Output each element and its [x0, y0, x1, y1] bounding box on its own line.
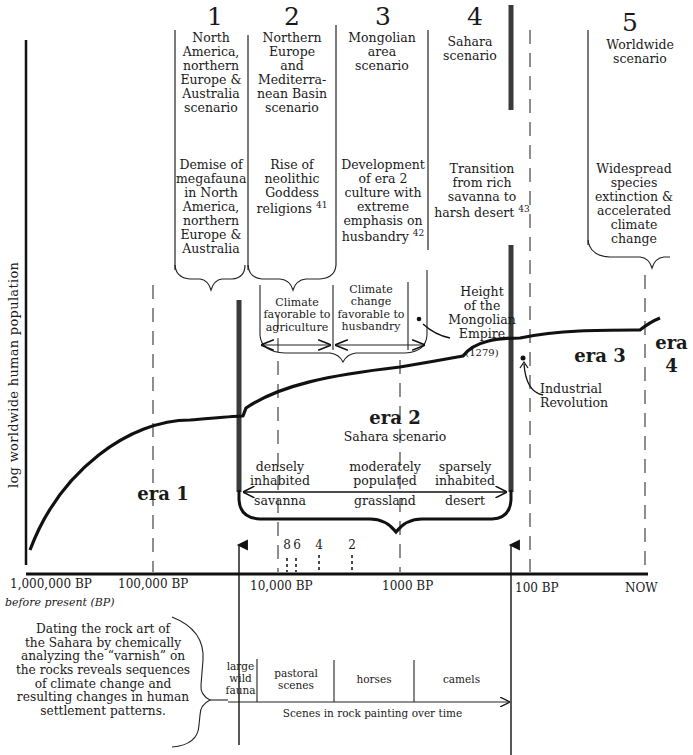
- scenario-4-title: Sahara scenario: [430, 35, 510, 63]
- rock-art-note: Dating the rock art of the Sahara by che…: [8, 623, 198, 719]
- era-4-label-a: era: [650, 333, 693, 353]
- rock-art-caption: Scenes in rock painting over time: [240, 708, 505, 720]
- rock-scene-horses: horses: [334, 674, 414, 686]
- scenario-3-number: 3: [363, 4, 403, 29]
- x-tick-1000: 1000 BP: [382, 580, 433, 593]
- climate-agriculture-label: Climate favorable to agriculture: [262, 297, 332, 334]
- era-3-label: era 3: [565, 346, 635, 366]
- x-tick-now: NOW: [625, 582, 658, 595]
- y-axis-label: log worldwide human population: [6, 262, 21, 488]
- scenario-2-event-text: Rise of neolithic Goddess religions: [257, 157, 320, 216]
- climate-husbandry-label: Climate change favorable to husbandry: [335, 284, 407, 333]
- diagram-canvas: log worldwide human population 1 2 3 4 5…: [0, 0, 693, 755]
- x-tick-100000: 100,000 BP: [118, 578, 188, 591]
- scenario-1-event: Demise of megafauna in North America, no…: [176, 158, 246, 256]
- rock-art-marker-4: 4: [314, 539, 324, 552]
- rock-scene-camels: camels: [414, 674, 509, 686]
- scenario-4-event-text: Transition from rich savanna to harsh de…: [434, 161, 516, 220]
- scenario-3-ref: 42: [413, 228, 424, 238]
- industrial-revolution-label: Industrial Revolution: [540, 382, 620, 410]
- sahara-band-desert-bottom: desert: [420, 494, 510, 508]
- rock-scene-pastoral: pastoral scenes: [258, 668, 334, 692]
- era-4-label-b: 4: [650, 356, 693, 376]
- scenario-1-number: 1: [195, 4, 235, 29]
- mongolian-empire-label: Height of the Mongolian Empire: [446, 285, 518, 341]
- scenario-3-title: Mongolian area scenario: [338, 31, 426, 73]
- sahara-band-savanna-top: densely inhabited: [240, 460, 320, 488]
- x-axis-bp-note: before present (BP): [5, 597, 115, 609]
- rock-art-marker-2: 2: [347, 539, 357, 552]
- scenario-5-title: Worldwide scenario: [590, 38, 690, 66]
- x-tick-10000: 10,000 BP: [250, 580, 313, 593]
- scenario-5-number: 5: [610, 10, 650, 35]
- scenario-4-number: 4: [455, 4, 495, 29]
- scenario-4-ref: 43: [518, 204, 529, 214]
- scenario-5-event: Widespread species extinction & accelera…: [590, 162, 678, 246]
- scenario-2-title: Northern Europe and Mediterra- nean Basi…: [250, 31, 334, 115]
- scenario-2-number: 2: [272, 4, 312, 29]
- scenario-2-ref: 41: [316, 200, 327, 210]
- x-tick-100: 100 BP: [515, 582, 559, 595]
- scenario-3-event: Development of era 2 culture with extrem…: [336, 158, 430, 244]
- era-1-label: era 1: [128, 484, 198, 504]
- rock-scene-large-wild-fauna: large wild fauna: [223, 661, 258, 696]
- era-2-sublabel: Sahara scenario: [330, 430, 460, 444]
- rock-art-marker-6: 6: [292, 539, 302, 552]
- x-tick-1000000: 1,000,000 BP: [10, 578, 92, 591]
- rock-art-marker-8: 8: [282, 539, 292, 552]
- sahara-band-savanna-bottom: savanna: [240, 494, 320, 508]
- era-2-label: era 2: [355, 408, 435, 428]
- scenario-1-title: North America, northern Europe & Austral…: [176, 31, 246, 115]
- scenario-2-event: Rise of neolithic Goddess religions 41: [250, 158, 334, 216]
- sahara-band-desert-top: sparsely inhabited: [420, 460, 510, 488]
- scenario-4-event: Transition from rich savanna to harsh de…: [432, 162, 532, 220]
- mongolian-empire-year: (1279): [446, 347, 518, 358]
